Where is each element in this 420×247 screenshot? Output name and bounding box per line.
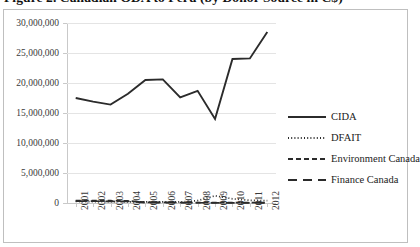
legend-item[interactable]: DFAIT — [287, 127, 411, 148]
y-axis-label: 25,000,000 — [16, 48, 59, 58]
legend-item[interactable]: Environment Canada — [287, 148, 411, 169]
legend-label: Finance Canada — [327, 174, 398, 185]
legend-label: DFAIT — [327, 132, 361, 143]
legend-key-solid-icon — [287, 111, 327, 123]
legend-key-long-dash-icon — [287, 174, 327, 186]
figure-title: Figure 2. Canadian ODA to Peru (by Donor… — [4, 0, 343, 6]
y-axis-label: 20,000,000 — [16, 78, 59, 88]
y-axis-label: 0 — [54, 198, 59, 208]
y-axis-label: 15,000,000 — [16, 108, 59, 118]
legend-label: Environment Canada — [327, 153, 420, 164]
y-axis-label: 5,000,000 — [21, 168, 59, 178]
plot-area: 05,000,00010,000,00015,000,00020,000,000… — [67, 23, 276, 203]
y-axis-label: 10,000,000 — [16, 138, 59, 148]
legend-key-dotted-icon — [287, 132, 327, 144]
legend-key-dashed-icon — [287, 153, 327, 165]
legend: CIDADFAITEnvironment CanadaFinance Canad… — [287, 106, 411, 190]
chart-frame: 05,000,00010,000,00015,000,00020,000,000… — [3, 9, 408, 243]
legend-item[interactable]: Finance Canada — [287, 169, 411, 190]
legend-label: CIDA — [327, 111, 357, 122]
series-line — [76, 32, 268, 119]
legend-item[interactable]: CIDA — [287, 106, 411, 127]
y-axis-label: 30,000,000 — [16, 18, 59, 28]
figure-title-clipped: Figure 2. Canadian ODA to Peru (by Donor… — [0, 0, 411, 9]
series-lines — [67, 23, 276, 204]
